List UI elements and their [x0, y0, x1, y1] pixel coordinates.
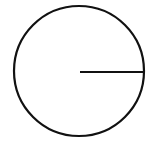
diagram-canvas: [0, 0, 154, 148]
